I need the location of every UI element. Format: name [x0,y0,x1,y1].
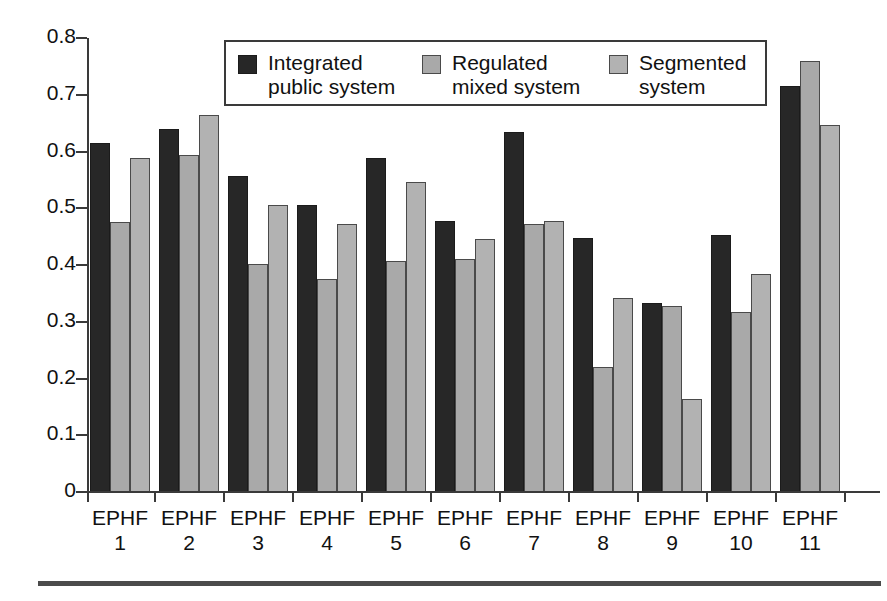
x-tick-mark-0 [87,491,89,502]
x-tick-mark-4 [361,491,363,502]
legend-label-series-2: Regulated mixed system [452,51,580,99]
bar-ephf-8-series-2 [593,367,613,492]
bar-ephf-7-series-3 [544,221,564,492]
x-label-line-1: EPHF [299,506,355,529]
x-tick-mark-9 [706,491,708,502]
bar-ephf-2-series-2 [179,155,199,492]
bar-ephf-9-series-3 [682,399,702,492]
x-label-line-1: EPHF [782,506,838,529]
legend-swatch-icon-series-1 [238,55,257,74]
bar-ephf-5-series-1 [366,158,386,492]
bottom-divider-rule [38,581,881,586]
bar-ephf-11-series-2 [800,61,820,492]
legend-item-segmented-system[interactable]: Segmented system [609,51,746,99]
bar-ephf-8-series-1 [573,238,593,492]
bar-ephf-5-series-2 [386,261,406,492]
x-tick-mark-1 [154,491,156,502]
x-tick-mark-8 [637,491,639,502]
bar-ephf-7-series-2 [524,224,544,492]
legend-swatch-icon-series-3 [609,55,628,74]
bar-ephf-11-series-1 [780,86,800,492]
x-label-line-1: EPHF [92,506,148,529]
bar-ephf-1-series-1 [90,143,110,492]
x-label-line-1: EPHF [161,506,217,529]
bar-ephf-10-series-2 [731,312,751,492]
chart-legend: Integrated public system Regulated mixed… [224,40,767,106]
x-label-line-1: EPHF [230,506,286,529]
x-tick-mark-11 [844,491,846,502]
x-axis-group-label-11: EPHF11 [765,505,855,555]
legend-item-integrated-public-system[interactable]: Integrated public system [238,51,395,99]
bar-ephf-2-series-3 [199,115,219,492]
bar-ephf-10-series-1 [711,235,731,492]
bar-ephf-9-series-1 [642,303,662,492]
bar-ephf-1-series-2 [110,222,130,492]
bar-ephf-6-series-1 [435,221,455,492]
bar-ephf-10-series-3 [751,274,771,492]
bar-chart: 0.80.70.60.50.40.30.20.10 EPHF1EPHF2EPHF… [0,0,887,601]
bar-ephf-4-series-2 [317,279,337,492]
bar-ephf-3-series-2 [248,264,268,492]
bar-ephf-4-series-1 [297,205,317,492]
x-tick-mark-10 [775,491,777,502]
x-axis-line [87,491,880,493]
bar-ephf-9-series-2 [662,306,682,492]
x-label-line-1: EPHF [368,506,424,529]
bar-ephf-5-series-3 [406,182,426,492]
bar-ephf-7-series-1 [504,132,524,492]
bar-ephf-6-series-2 [455,259,475,492]
bar-ephf-4-series-3 [337,224,357,492]
x-tick-mark-3 [292,491,294,502]
x-label-line-2: 11 [765,530,855,555]
bar-ephf-8-series-3 [613,298,633,492]
x-tick-mark-6 [499,491,501,502]
x-tick-mark-7 [568,491,570,502]
bar-ephf-6-series-3 [475,239,495,492]
x-label-line-1: EPHF [506,506,562,529]
x-tick-mark-5 [430,491,432,502]
bar-ephf-2-series-1 [159,129,179,492]
legend-swatch-icon-series-2 [422,55,441,74]
bar-ephf-3-series-3 [268,205,288,492]
x-tick-mark-2 [223,491,225,502]
x-label-line-1: EPHF [437,506,493,529]
legend-label-series-3: Segmented system [639,51,746,99]
bar-ephf-11-series-3 [820,125,840,492]
x-label-line-1: EPHF [644,506,700,529]
x-label-line-1: EPHF [575,506,631,529]
legend-label-series-1: Integrated public system [268,51,395,99]
bar-ephf-3-series-1 [228,176,248,492]
bar-ephf-1-series-3 [130,158,150,492]
legend-item-regulated-mixed-system[interactable]: Regulated mixed system [422,51,580,99]
x-label-line-1: EPHF [713,506,769,529]
